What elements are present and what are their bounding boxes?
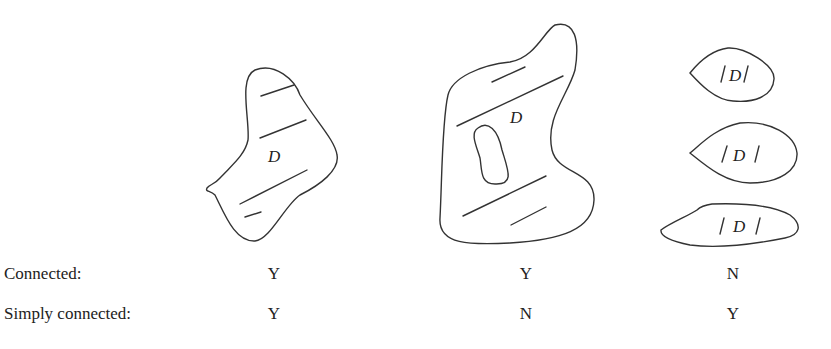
region-3c-label: D — [732, 217, 746, 236]
cell-simply-1: Y — [264, 304, 284, 324]
region-2-outline — [440, 24, 594, 244]
region-3b-label: D — [732, 146, 746, 165]
region-1-label: D — [267, 147, 281, 166]
cell-simply-2: N — [516, 304, 536, 324]
region-3c-outline — [661, 204, 798, 247]
region-3a-label: D — [728, 66, 742, 85]
region-2-label: D — [509, 108, 523, 127]
regions-diagram: D D D D D — [0, 0, 831, 260]
row-label-simply-connected: Simply connected: — [4, 304, 131, 324]
region-2-hole — [474, 125, 508, 184]
cell-connected-2: Y — [516, 264, 536, 284]
cell-simply-3: Y — [723, 304, 743, 324]
cell-connected-3: N — [723, 264, 743, 284]
cell-connected-1: Y — [264, 264, 284, 284]
row-label-connected: Connected: — [4, 264, 81, 284]
